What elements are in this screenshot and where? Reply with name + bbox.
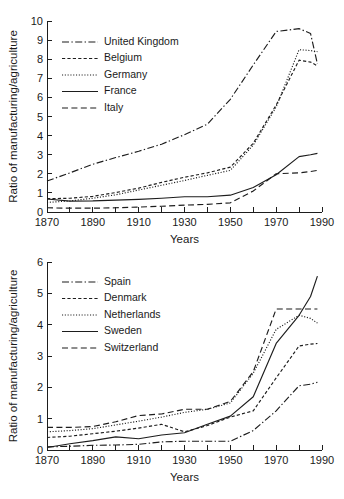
x-axis-tick-label: 1930 [172, 454, 196, 466]
legend-label-united-kingdom: United Kingdom [104, 35, 179, 47]
legend-label-spain: Spain [104, 275, 131, 287]
x-axis-title: Years [170, 233, 199, 245]
y-axis-title: Ratio of manufacturing/agriculture [7, 30, 19, 203]
x-axis-tick-label: 1870 [35, 454, 59, 466]
legend-label-switzerland: Switzerland [104, 341, 158, 353]
x-axis-tick-label: 1990 [310, 216, 334, 228]
x-axis-tick-label: 1990 [310, 454, 334, 466]
y-axis-tick-label: 6 [37, 256, 43, 268]
x-axis-tick-label: 1910 [126, 454, 150, 466]
y-axis-tick-label: 8 [37, 53, 43, 65]
x-axis-tick-label: 1890 [81, 454, 105, 466]
x-axis-tick-label: 1970 [264, 454, 288, 466]
legend-label-italy: Italy [104, 101, 124, 113]
line-chart-top: 0123456789101870189019101930195019701990… [0, 0, 344, 250]
series-line-italy [47, 170, 317, 208]
x-axis-tick-label: 1870 [35, 216, 59, 228]
y-axis-tick-label: 5 [37, 111, 43, 123]
y-axis-tick-label: 1 [37, 413, 43, 425]
legend-label-sweden: Sweden [104, 324, 142, 336]
chart-panel-bottom: 01234561870189019101930195019701990Years… [0, 250, 344, 499]
series-line-sweden [47, 276, 317, 447]
chart-legend: United KingdomBelgiumGermanyFranceItaly [62, 35, 179, 113]
x-axis-tick-label: 1910 [126, 216, 150, 228]
y-axis-tick-label: 2 [37, 381, 43, 393]
x-axis-title: Years [170, 471, 199, 483]
y-axis-tick-label: 4 [37, 319, 43, 331]
y-axis-tick-label: 6 [37, 91, 43, 103]
legend-label-germany: Germany [104, 68, 148, 80]
series-line-belgium [47, 60, 317, 198]
x-axis-tick-label: 1890 [81, 216, 105, 228]
y-axis-tick-label: 2 [37, 168, 43, 180]
x-axis-tick-label: 1930 [172, 216, 196, 228]
series-line-spain [47, 382, 317, 447]
axis-spines [47, 262, 322, 450]
x-axis-tick-label: 1970 [264, 216, 288, 228]
y-axis-tick-label: 4 [37, 130, 43, 142]
y-axis-tick-label: 9 [37, 34, 43, 46]
x-axis-tick-label: 1950 [218, 216, 242, 228]
legend-label-denmark: Denmark [104, 291, 147, 303]
line-chart-bottom: 01234561870189019101930195019701990Years… [0, 250, 344, 499]
chart-legend: SpainDenmarkNetherlandsSwedenSwitzerland [62, 275, 161, 353]
y-axis-tick-label: 3 [37, 149, 43, 161]
y-axis-title: Ratio of manufacturing/agriculture [7, 270, 19, 443]
y-axis-tick-label: 1 [37, 187, 43, 199]
y-axis-tick-label: 7 [37, 72, 43, 84]
legend-label-netherlands: Netherlands [104, 308, 161, 320]
legend-label-france: France [104, 84, 137, 96]
axis-spines [47, 21, 322, 212]
legend-label-belgium: Belgium [104, 51, 142, 63]
y-axis-tick-label: 5 [37, 287, 43, 299]
series-line-netherlands [47, 315, 317, 432]
chart-panel-top: 0123456789101870189019101930195019701990… [0, 0, 344, 250]
series-line-germany [47, 50, 317, 203]
x-axis-tick-label: 1950 [218, 454, 242, 466]
series-line-denmark [47, 343, 317, 437]
y-axis-tick-label: 3 [37, 350, 43, 362]
y-axis-tick-label: 10 [31, 15, 43, 27]
